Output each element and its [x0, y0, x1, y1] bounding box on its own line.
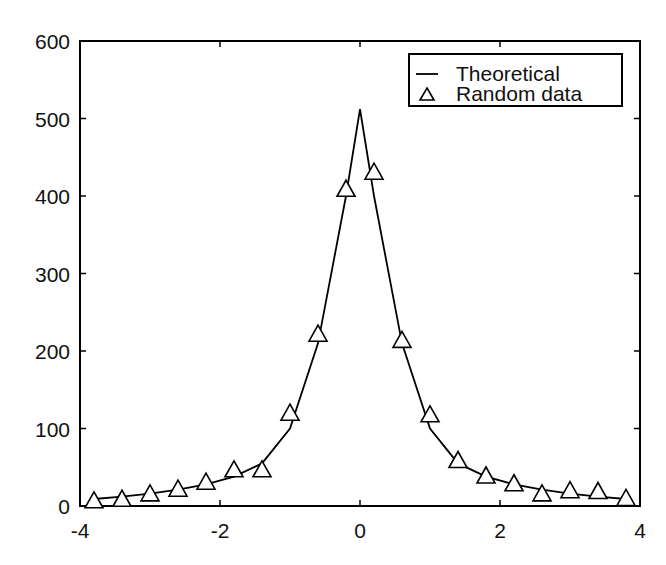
y-tick-label: 600 — [35, 30, 70, 53]
triangle-marker-icon — [197, 473, 215, 489]
x-tick-label: 0 — [354, 519, 366, 542]
triangle-marker-icon — [85, 492, 103, 508]
theoretical-line — [94, 109, 626, 499]
x-tick-label: 2 — [494, 519, 506, 542]
x-tick-label: 4 — [634, 519, 646, 542]
legend-label-random-data: Random data — [456, 82, 582, 105]
plot-area — [85, 109, 635, 508]
triangle-marker-icon — [253, 461, 271, 477]
triangle-marker-icon — [337, 180, 355, 196]
y-tick-label: 300 — [35, 263, 70, 286]
chart: -4-20240100200300400500600 Theoretical R… — [0, 0, 666, 565]
y-tick-label: 0 — [58, 495, 70, 518]
triangle-marker-icon — [309, 325, 327, 341]
x-tick-label: -2 — [211, 519, 230, 542]
random-data-markers — [85, 163, 635, 508]
triangle-marker-icon — [225, 461, 243, 477]
triangle-marker-icon — [393, 331, 411, 347]
triangle-marker-icon — [561, 482, 579, 498]
triangle-marker-icon — [533, 485, 551, 501]
y-tick-label: 100 — [35, 418, 70, 441]
y-tick-label: 200 — [35, 340, 70, 363]
triangle-marker-icon — [365, 163, 383, 179]
triangle-marker-icon — [449, 452, 467, 468]
triangle-marker-icon — [477, 467, 495, 483]
y-tick-label: 500 — [35, 108, 70, 131]
triangle-marker-icon — [617, 489, 635, 505]
y-tick-label: 400 — [35, 185, 70, 208]
triangle-marker-icon — [113, 490, 131, 506]
x-tick-label: -4 — [71, 519, 90, 542]
legend: Theoretical Random data — [409, 54, 622, 106]
triangle-marker-icon — [589, 483, 607, 499]
